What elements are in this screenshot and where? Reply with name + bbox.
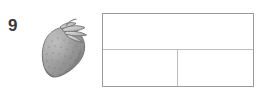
table-row: [103, 14, 253, 50]
table-row: [103, 50, 253, 86]
bottom-left-cell[interactable]: [103, 50, 178, 86]
strawberry-icon: [36, 13, 92, 81]
item-number: 9: [8, 16, 24, 36]
strawberry-illustration: [36, 13, 92, 81]
bottom-right-cell[interactable]: [178, 50, 253, 86]
top-cell[interactable]: [103, 14, 253, 49]
answer-table[interactable]: [102, 13, 254, 87]
